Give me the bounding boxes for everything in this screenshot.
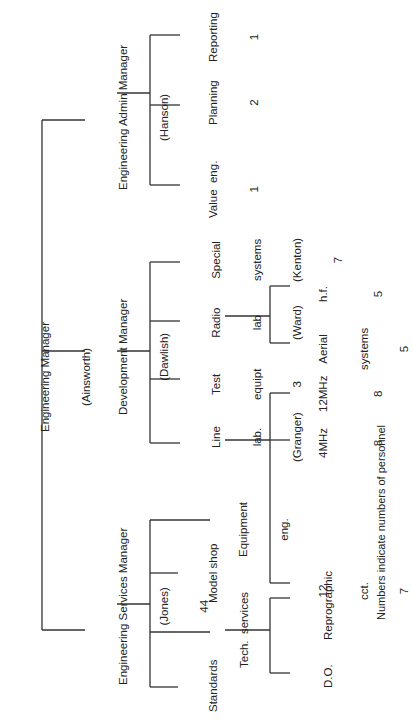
node-value-eng: Value eng. 1 — [180, 161, 275, 218]
node-title: Engineering Services Manager — [117, 528, 131, 685]
node-reprographic: Reprographic — [295, 571, 349, 640]
node-title: Engineering Manager — [39, 322, 53, 432]
node-development-manager: Development Manager (Dawlish) — [90, 299, 185, 415]
node-special-systems: Special systems (Kenton) 7 — [183, 238, 359, 282]
node-equipment-eng: Equipment eng. — [210, 502, 305, 557]
node-person: (Hanson) — [158, 45, 172, 190]
node-reporting: Reporting 1 — [180, 12, 275, 62]
node-do: D.O. — [295, 664, 349, 688]
node-12mhz: 12MHz 8 — [290, 376, 399, 412]
node-tech-services: Tech. services — [211, 592, 265, 668]
node-hf: h.f. 5 — [290, 286, 399, 302]
node-aerial-systems: Aerial systems 5 — [290, 328, 413, 370]
node-engineering-admin-manager: Engineering Admin Manager (Hanson) — [90, 45, 185, 190]
node-person: (Jones) — [158, 528, 172, 685]
node-title: Development Manager — [117, 299, 131, 415]
node-person: (Dawlish) — [158, 299, 172, 415]
caption: Numbers indicate numbers of personnel — [348, 425, 402, 620]
node-planning: Planning 2 — [180, 80, 275, 125]
node-title: Engineering Admin Manager — [117, 45, 131, 190]
